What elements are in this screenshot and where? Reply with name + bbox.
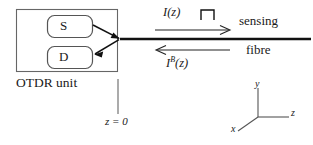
axis-x-line: [238, 117, 258, 131]
coordinate-axes: [238, 88, 289, 131]
axis-y-label: y: [255, 79, 259, 89]
fibre-upper-label: sensing: [239, 14, 278, 27]
backscatter-arrow: [156, 46, 230, 55]
backscatter-label-arg: (z): [175, 56, 188, 70]
forward-propagation-arrow: [155, 26, 230, 35]
forward-intensity-label: I(z): [163, 6, 180, 19]
backscatter-intensity-label: IB(z): [166, 56, 188, 70]
source-box: [48, 16, 93, 38]
axis-z-label: z: [291, 108, 295, 118]
square-pulse-icon: [201, 10, 214, 20]
fibre-lower-label: fibre: [246, 43, 271, 56]
fibre-to-detector-arrow: [94, 40, 119, 58]
axis-x-label: x: [231, 124, 235, 134]
otdr-unit-label: OTDR unit: [16, 76, 77, 90]
detector-label: D: [59, 50, 68, 63]
otdr-diagram: S D OTDR unit z = 0 I(z) IB(z) sensing f…: [0, 0, 313, 145]
source-label: S: [60, 19, 67, 32]
source-to-fibre-arrow: [93, 25, 120, 39]
z-origin-label: z = 0: [105, 116, 128, 127]
detector-box: [48, 47, 93, 69]
